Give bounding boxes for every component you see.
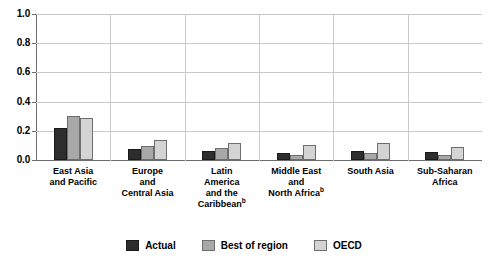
bar: [290, 155, 303, 160]
x-axis-category-label-line: East Asia: [36, 166, 110, 177]
bar: [80, 118, 93, 160]
x-axis-category-label-line: Sub-Saharan: [408, 166, 482, 177]
bar: [141, 146, 154, 160]
bar-group: [110, 14, 184, 160]
x-axis-category-label-line: Middle East: [259, 166, 333, 177]
y-axis-tick-label: 0.2: [0, 126, 30, 136]
bar-group: [408, 14, 482, 160]
bar: [228, 143, 241, 160]
x-axis-category-label-line: North Africab: [259, 188, 333, 199]
y-axis-tick-labels: 1.00.80.60.40.20.0: [0, 0, 30, 276]
bar: [277, 153, 290, 160]
x-axis-category-label: LatinAmericaand theCaribbeanb: [185, 166, 259, 210]
legend-label: OECD: [333, 240, 362, 251]
y-axis-tick-label: 1.0: [0, 9, 30, 19]
x-axis-category-label-line: and the: [185, 188, 259, 199]
bar: [364, 153, 377, 160]
y-axis-tick-label: 0.6: [0, 67, 30, 77]
legend-label: Best of region: [221, 240, 288, 251]
chart-legend: ActualBest of regionOECD: [0, 240, 488, 251]
legend-item[interactable]: Best of region: [202, 240, 288, 251]
bar: [202, 151, 215, 160]
x-axis-category-label-line: Central Asia: [110, 188, 184, 199]
x-axis-category-labels: East Asiaand PacificEuropeandCentral Asi…: [36, 166, 482, 226]
x-axis-category-label-line: and Pacific: [36, 177, 110, 188]
y-axis-tick-label: 0.4: [0, 97, 30, 107]
x-axis-category-label-line: and: [110, 177, 184, 188]
x-axis-category-label-line: America: [185, 177, 259, 188]
legend-item[interactable]: Actual: [126, 240, 176, 251]
x-axis-category-label-line: Caribbeanb: [185, 199, 259, 210]
x-axis-category-label: South Asia: [333, 166, 407, 177]
x-axis-category-label-line: South Asia: [333, 166, 407, 177]
bar: [438, 155, 451, 160]
bar: [215, 148, 228, 160]
footnote-marker: b: [242, 197, 246, 204]
bar: [425, 152, 438, 160]
x-axis-category-label-line: Africa: [408, 177, 482, 188]
footnote-marker: b: [320, 186, 324, 193]
bar-chart: 1.00.80.60.40.20.0 East Asiaand PacificE…: [0, 0, 488, 276]
x-axis-category-label-line: Europe: [110, 166, 184, 177]
x-axis-category-label: Sub-SaharanAfrica: [408, 166, 482, 188]
bar: [377, 143, 390, 160]
y-axis-tick-label: 0.0: [0, 155, 30, 165]
legend-swatch-icon: [202, 240, 215, 251]
legend-item[interactable]: OECD: [314, 240, 362, 251]
bar-group: [36, 14, 110, 160]
y-axis-tick-label: 0.8: [0, 38, 30, 48]
bar-group: [185, 14, 259, 160]
x-axis-category-label: Middle EastandNorth Africab: [259, 166, 333, 199]
x-axis-category-label: EuropeandCentral Asia: [110, 166, 184, 199]
y-axis-tick-mark: [32, 160, 36, 161]
bar: [128, 149, 141, 160]
x-axis-category-label: East Asiaand Pacific: [36, 166, 110, 188]
bar: [154, 140, 167, 160]
bar: [67, 116, 80, 160]
bar: [54, 128, 67, 160]
legend-swatch-icon: [314, 240, 327, 251]
bar: [303, 145, 316, 160]
legend-swatch-icon: [126, 240, 139, 251]
bar: [451, 147, 464, 160]
bar: [351, 151, 364, 160]
bar-group: [333, 14, 407, 160]
bar-group: [259, 14, 333, 160]
plot-area: [36, 14, 482, 161]
legend-label: Actual: [145, 240, 176, 251]
x-axis-category-label-line: Latin: [185, 166, 259, 177]
